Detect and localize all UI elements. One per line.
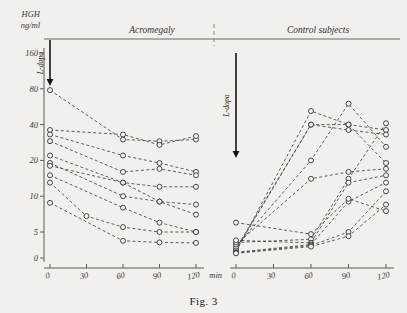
data-point-marker — [121, 137, 126, 142]
data-point-marker — [157, 240, 162, 245]
data-point-marker — [121, 238, 126, 243]
data-point-marker — [384, 144, 389, 149]
x-tick-label: 30 — [265, 270, 277, 282]
ldopa-arrow-right-head — [233, 151, 240, 158]
data-point-marker — [346, 234, 351, 239]
data-point-marker — [157, 230, 162, 235]
data-point-marker — [384, 202, 389, 207]
data-point-marker — [121, 169, 126, 174]
data-point-marker — [384, 189, 389, 194]
data-point-marker — [48, 180, 53, 185]
y-tick-label: 80 — [30, 84, 39, 94]
data-point-marker — [121, 132, 126, 137]
series-group-acromegaly — [48, 88, 199, 246]
y-tick-label: 20 — [30, 155, 39, 165]
data-point-marker — [121, 225, 126, 230]
data-point-marker — [157, 184, 162, 189]
data-point-marker — [194, 173, 199, 178]
ldopa-arrow-left-label: L-dopa — [36, 52, 45, 76]
data-point-marker — [309, 244, 314, 249]
x-tick-label: 30 — [78, 270, 90, 282]
panel-title-control: Control subjects — [287, 25, 349, 35]
ldopa-arrow-right-label: L-dopa — [222, 94, 231, 118]
data-point-marker — [384, 180, 389, 185]
data-point-marker — [346, 101, 351, 106]
x-tick-label: 60 — [303, 270, 314, 282]
x-tick-label: 90 — [152, 270, 163, 282]
y-tick-label: 40 — [30, 120, 39, 130]
ldopa-arrow-left-head — [47, 79, 54, 86]
data-point-marker — [194, 184, 199, 189]
y-tick-label: 10 — [30, 191, 39, 201]
figure-caption: Fig. 3 — [0, 295, 407, 307]
x-tick-label: 0 — [44, 270, 51, 281]
data-point-marker — [384, 209, 389, 214]
data-point-marker — [48, 88, 53, 93]
data-point-marker — [234, 238, 239, 243]
series-line — [236, 199, 386, 234]
data-point-marker — [157, 142, 162, 147]
figure-3: AcromegalyControl subjectsHGHng/ml160804… — [0, 0, 407, 313]
data-point-marker — [384, 166, 389, 171]
y-tick-label: 0 — [34, 253, 39, 263]
data-point-marker — [194, 134, 199, 139]
series-line — [236, 125, 386, 249]
data-point-marker — [121, 180, 126, 185]
data-point-marker — [346, 128, 351, 133]
data-point-marker — [48, 163, 53, 168]
y-axis-title-hgh: HGH — [21, 9, 41, 19]
data-point-marker — [234, 220, 239, 225]
x-tick-label: 60 — [115, 270, 126, 282]
data-point-marker — [346, 122, 351, 127]
data-point-marker — [48, 139, 53, 144]
data-point-marker — [346, 180, 351, 185]
x-tick-label: 0 — [230, 270, 237, 281]
data-point-marker — [121, 205, 126, 210]
data-point-marker — [48, 173, 53, 178]
data-point-marker — [309, 109, 314, 114]
data-point-marker — [346, 169, 351, 174]
y-axis-title-units: ng/ml — [21, 20, 41, 30]
x-unit-label: min — [209, 270, 222, 280]
x-tick-label: 120 — [376, 269, 391, 282]
data-point-marker — [194, 212, 199, 217]
data-point-marker — [48, 153, 53, 158]
y-tick-label: 5 — [34, 227, 38, 237]
data-point-marker — [309, 158, 314, 163]
data-point-marker — [309, 176, 314, 181]
x-tick-label: 120 — [186, 269, 201, 282]
data-point-marker — [234, 251, 239, 256]
data-point-marker — [48, 200, 53, 205]
data-point-marker — [309, 232, 314, 237]
data-point-marker — [194, 230, 199, 235]
data-point-marker — [121, 194, 126, 199]
data-point-marker — [309, 122, 314, 127]
data-point-marker — [194, 202, 199, 207]
data-point-marker — [48, 132, 53, 137]
data-point-marker — [194, 240, 199, 245]
data-point-marker — [121, 153, 126, 158]
panel-title-acromegaly: Acromegaly — [128, 25, 175, 35]
data-point-marker — [384, 121, 389, 126]
x-tick-label: 90 — [341, 270, 352, 282]
data-point-marker — [157, 161, 162, 166]
data-point-marker — [384, 161, 389, 166]
data-point-marker — [384, 132, 389, 137]
series-group-control — [234, 101, 389, 256]
data-point-marker — [157, 220, 162, 225]
data-point-marker — [384, 173, 389, 178]
plot-canvas: AcromegalyControl subjectsHGHng/ml160804… — [0, 0, 407, 313]
data-point-marker — [157, 199, 162, 204]
data-point-marker — [157, 166, 162, 171]
data-point-marker — [84, 214, 89, 219]
data-point-marker — [346, 196, 351, 201]
series-line — [236, 123, 386, 242]
